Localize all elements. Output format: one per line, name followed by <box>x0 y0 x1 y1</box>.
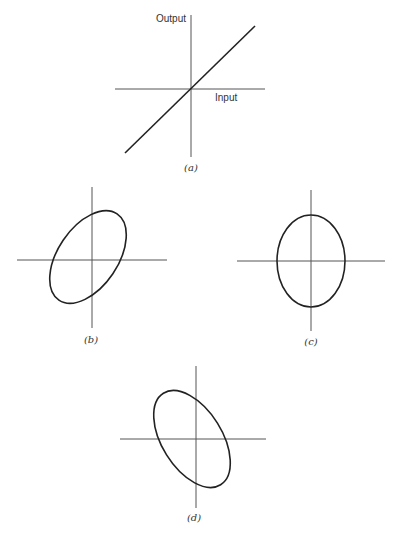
panel-d: (d) <box>120 366 266 523</box>
panel-a-caption: (a) <box>184 162 198 173</box>
panel-a-x-axis-label: Input <box>215 92 237 103</box>
panel-b: (b) <box>17 187 167 345</box>
panel-c-caption: (c) <box>304 336 318 347</box>
panel-a-y-axis-label: Output <box>156 13 186 24</box>
figure-canvas: Output Input (a) (b) (c) (d) <box>0 0 400 533</box>
panel-a: Output Input (a) <box>115 13 265 173</box>
panel-b-caption: (b) <box>84 334 98 345</box>
panel-c: (c) <box>237 190 385 347</box>
panel-d-caption: (d) <box>187 512 201 523</box>
panel-b-ellipse <box>34 197 142 317</box>
